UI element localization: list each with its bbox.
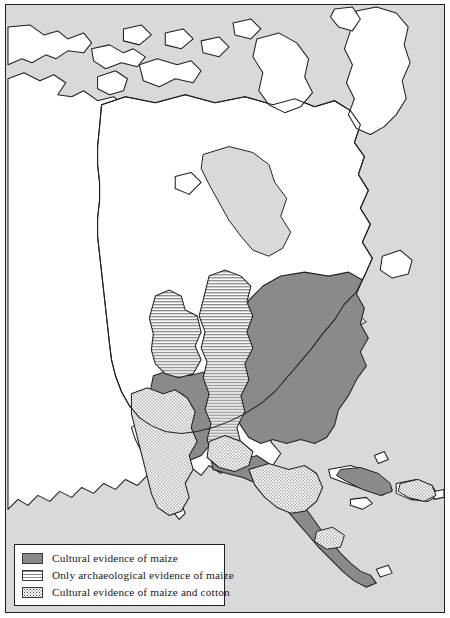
legend-item-archaeological: Only archaeological evidence of maize	[22, 567, 224, 584]
legend-label-maize: Cultural evidence of maize	[52, 553, 178, 564]
stippled-swatch	[22, 587, 43, 598]
map-legend: Cultural evidence of maize Only archaeol…	[14, 544, 225, 606]
legend-item-maize-cotton: Cultural evidence of maize and cotton	[22, 584, 224, 601]
map-frame: Cultural evidence of maize Only archaeol…	[5, 4, 445, 613]
legend-label-maize-cotton: Cultural evidence of maize and cotton	[52, 587, 230, 598]
legend-label-archaeological: Only archaeological evidence of maize	[52, 570, 234, 581]
solid-gray-swatch	[22, 553, 43, 564]
map-figure: Cultural evidence of maize Only archaeol…	[0, 0, 450, 618]
north-america-map	[6, 5, 444, 612]
legend-item-maize: Cultural evidence of maize	[22, 550, 224, 567]
striped-swatch	[22, 570, 43, 581]
